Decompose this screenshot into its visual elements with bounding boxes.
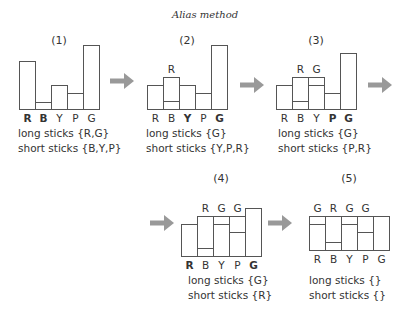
bar-r: R xyxy=(148,86,164,125)
bar-rect xyxy=(198,217,214,257)
alias-label: R xyxy=(168,63,175,75)
bar-name-label: B xyxy=(330,253,337,265)
bar-b: B xyxy=(36,103,52,125)
bar-rect xyxy=(212,46,228,110)
bar-g: G xyxy=(212,46,228,125)
bar-r: R xyxy=(20,62,36,125)
bar-r: R xyxy=(182,225,198,272)
bar-rect xyxy=(374,217,390,251)
bar-name-label: P xyxy=(329,112,337,124)
bar-rect xyxy=(325,94,341,110)
bar-name-label: G xyxy=(344,112,353,124)
bar-p: GP xyxy=(358,202,374,265)
bar-name-label: R xyxy=(152,112,159,124)
bar-name-label: B xyxy=(202,259,209,271)
bar-b: RB xyxy=(164,63,180,124)
bar-rect xyxy=(84,46,100,110)
bar-name-label: R xyxy=(314,253,321,265)
long-sticks-text: long sticks {R,G} xyxy=(18,126,121,141)
bar-rect xyxy=(36,103,52,110)
bar-name-label: Y xyxy=(55,112,63,124)
right-arrow-icon xyxy=(150,215,174,231)
panel-label: (2) xyxy=(179,34,195,47)
panel-3: (3)RRBGYPG xyxy=(277,34,357,124)
bar-name-label: P xyxy=(362,253,368,265)
bar-rect xyxy=(180,86,196,110)
alias-label: G xyxy=(312,63,320,75)
bar-name-label: Y xyxy=(217,259,225,271)
bar-rect xyxy=(277,86,293,110)
short-sticks-text: short sticks {B,Y,P} xyxy=(18,141,121,156)
bar-y: GY xyxy=(342,202,358,265)
bar-rect xyxy=(342,217,358,251)
panel-5: (5)GRRBGYGPG xyxy=(310,172,390,265)
bar-rect xyxy=(164,78,180,110)
bar-p: GP xyxy=(230,202,246,271)
alias-label: R xyxy=(202,202,209,214)
panel-2: (2)RRBYPG xyxy=(148,34,228,124)
bar-rect xyxy=(341,54,357,110)
alias-label: G xyxy=(233,202,241,214)
bar-y: Y xyxy=(52,86,68,125)
bar-g: G xyxy=(246,209,262,272)
bar-name-label: G xyxy=(249,259,258,271)
bar-rect xyxy=(326,217,342,251)
bar-y: Y xyxy=(180,86,196,125)
bar-g: G xyxy=(84,46,100,125)
bar-name-label: P xyxy=(72,112,78,124)
bar-name-label: Y xyxy=(312,112,320,124)
alias-label: G xyxy=(345,202,353,214)
bar-rect xyxy=(68,94,84,110)
bar-b: RB xyxy=(326,202,342,265)
diagram-canvas: (1)RBYPG(2)RRBYPG(3)RRBGYPG(4)RRBGYGPG(5… xyxy=(0,0,410,312)
panel-4: (4)RRBGYGPG xyxy=(182,172,262,271)
bar-name-label: Y xyxy=(183,112,192,124)
long-sticks-text: long sticks {G} xyxy=(146,126,250,141)
panel-2-caption: long sticks {G}short sticks {Y,P,R} xyxy=(146,126,250,156)
alias-method-diagram: Alias method (1)RBYPG(2)RRBYPG(3)RRBGYPG… xyxy=(0,0,410,312)
long-sticks-text: long sticks {G} xyxy=(188,273,272,288)
bar-name-label: B xyxy=(297,112,304,124)
bar-name-label: Y xyxy=(345,253,353,265)
bar-rect xyxy=(182,225,198,257)
long-sticks-text: long sticks {} xyxy=(309,273,386,288)
bar-name-label: R xyxy=(185,259,193,271)
bar-name-label: G xyxy=(87,112,95,124)
bar-p: P xyxy=(196,94,212,125)
bar-name-label: P xyxy=(200,112,206,124)
short-sticks-text: short sticks {Y,P,R} xyxy=(146,141,250,156)
panel-label: (4) xyxy=(213,172,229,185)
bar-rect xyxy=(246,209,262,257)
alias-label: G xyxy=(217,202,225,214)
bar-name-label: B xyxy=(168,112,175,124)
right-arrow-icon xyxy=(110,73,134,89)
bar-rect xyxy=(20,62,36,110)
alias-label: R xyxy=(330,202,337,214)
bar-name-label: G xyxy=(215,112,224,124)
long-sticks-text: long sticks {G} xyxy=(278,126,372,141)
bar-y: GY xyxy=(309,63,325,124)
panel-5-caption: long sticks {}short sticks {} xyxy=(309,273,386,303)
bar-rect xyxy=(309,78,325,110)
bar-name-label: P xyxy=(234,259,240,271)
panel-1: (1)RBYPG xyxy=(20,34,100,124)
bar-name-label: B xyxy=(39,112,47,124)
short-sticks-text: short sticks {R} xyxy=(188,288,272,303)
bar-y: GY xyxy=(214,202,230,271)
bar-rect xyxy=(52,86,68,110)
bar-r: GR xyxy=(310,202,326,265)
alias-label: G xyxy=(361,202,369,214)
alias-label: R xyxy=(297,63,304,75)
panel-1-caption: long sticks {R,G}short sticks {B,Y,P} xyxy=(18,126,121,156)
bar-rect xyxy=(214,217,230,257)
panel-label: (3) xyxy=(308,34,324,47)
panel-label: (1) xyxy=(51,34,67,47)
bar-rect xyxy=(148,86,164,110)
right-arrow-icon xyxy=(368,77,392,93)
bar-b: RB xyxy=(293,63,309,124)
bar-rect xyxy=(293,78,309,110)
bar-p: P xyxy=(68,94,84,125)
bar-r: R xyxy=(277,86,293,125)
short-sticks-text: short sticks {P,R} xyxy=(278,141,372,156)
bar-g: G xyxy=(341,54,357,125)
